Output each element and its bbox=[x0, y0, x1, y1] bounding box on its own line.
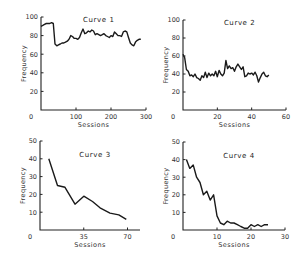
x-tick-label: 70 bbox=[123, 233, 131, 241]
y-tick-label: 40 bbox=[30, 69, 38, 77]
y-tick-label: 20 bbox=[172, 191, 180, 199]
y-tick-label: 100 bbox=[26, 13, 38, 21]
data-line bbox=[49, 159, 127, 220]
y-tick-label: 80 bbox=[172, 34, 180, 42]
data-line bbox=[41, 23, 141, 46]
y-axis-label: Frequency bbox=[162, 46, 170, 83]
data-line bbox=[183, 54, 269, 82]
y-axis-label: Frequency bbox=[19, 167, 27, 204]
chart-panel-1: 204060801000100200300SessionsFrequencyCu… bbox=[20, 13, 152, 129]
chart-title: Curve 4 bbox=[223, 152, 255, 160]
figure-canvas: 204060801000100200300SessionsFrequencyCu… bbox=[0, 0, 305, 260]
x-tick-label: 300 bbox=[140, 113, 152, 121]
x-tick-label: 40 bbox=[248, 113, 256, 121]
x-axis-label: Sessions bbox=[219, 121, 251, 129]
x-tick-label: 20 bbox=[213, 113, 221, 121]
data-line bbox=[186, 160, 268, 229]
x-tick-label: 100 bbox=[70, 113, 82, 121]
y-tick-label: 30 bbox=[172, 174, 180, 182]
chart-panel-3: 102030405003570SessionsFrequencyCurve 3 bbox=[19, 137, 140, 249]
x-tick-label: 20 bbox=[247, 233, 255, 241]
y-tick-label: 40 bbox=[172, 70, 180, 78]
y-tick-label: 30 bbox=[29, 173, 37, 181]
y-tick-label: 20 bbox=[30, 88, 38, 96]
chart-panel-2: 204060801000204060SessionsFrequencyCurve… bbox=[162, 16, 290, 129]
y-tick-label: 100 bbox=[168, 16, 180, 24]
origin-label: 0 bbox=[171, 233, 175, 241]
y-axis-label: Frequency bbox=[162, 167, 170, 204]
y-tick-label: 20 bbox=[172, 88, 180, 96]
y-tick-label: 60 bbox=[30, 51, 38, 59]
x-axis-label: Sessions bbox=[74, 241, 106, 249]
x-axis-label: Sessions bbox=[218, 241, 250, 249]
chart-title: Curve 1 bbox=[83, 16, 115, 24]
y-tick-label: 50 bbox=[29, 137, 37, 145]
x-tick-label: 200 bbox=[105, 113, 117, 121]
y-tick-label: 10 bbox=[29, 209, 37, 217]
x-tick-label: 10 bbox=[213, 233, 221, 241]
y-tick-label: 50 bbox=[172, 138, 180, 146]
x-tick-label: 30 bbox=[281, 233, 289, 241]
y-axis-label: Frequency bbox=[20, 45, 28, 82]
y-tick-label: 80 bbox=[30, 32, 38, 40]
y-tick-label: 40 bbox=[172, 156, 180, 164]
y-tick-label: 40 bbox=[29, 155, 37, 163]
origin-label: 0 bbox=[28, 233, 32, 241]
origin-label: 0 bbox=[171, 113, 175, 121]
y-tick-label: 60 bbox=[172, 52, 180, 60]
x-tick-label: 60 bbox=[282, 113, 290, 121]
x-axis-label: Sessions bbox=[78, 121, 110, 129]
y-tick-label: 20 bbox=[29, 191, 37, 199]
origin-label: 0 bbox=[29, 113, 33, 121]
x-tick-label: 35 bbox=[80, 233, 88, 241]
axes bbox=[183, 20, 286, 110]
y-tick-label: 10 bbox=[172, 209, 180, 217]
chart-title: Curve 3 bbox=[79, 151, 111, 159]
chart-panel-4: 10203040500102030SessionsFrequencyCurve … bbox=[162, 138, 289, 249]
chart-title: Curve 2 bbox=[224, 19, 256, 27]
